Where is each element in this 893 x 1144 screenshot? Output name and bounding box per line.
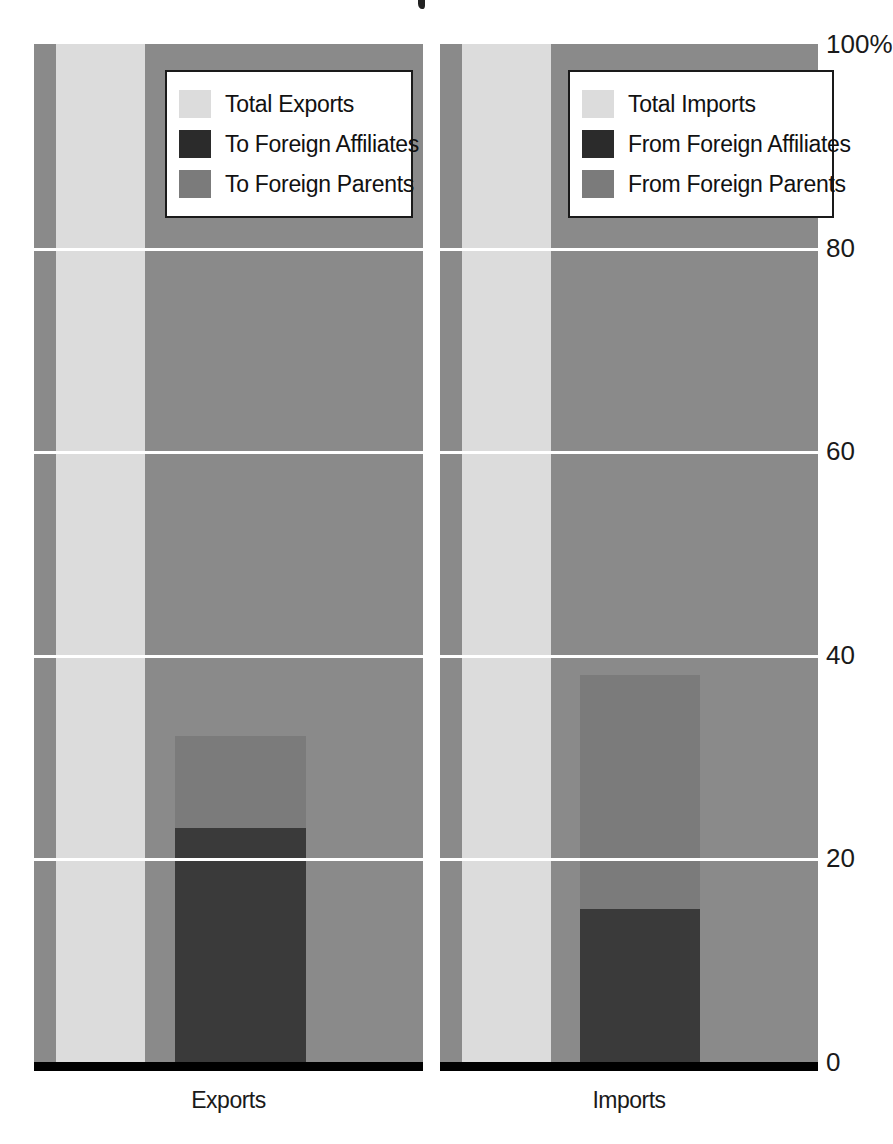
legend-swatch-affiliates-exports — [179, 130, 211, 158]
legend-label-affiliates-imports: From Foreign Affiliates — [628, 131, 851, 158]
legend-label-parents-exports: To Foreign Parents — [225, 171, 414, 198]
y-tick-label-60: 60 — [826, 438, 855, 464]
legend-label-total-imports: Total Imports — [628, 91, 756, 118]
y-tick-label-100: 100% — [826, 31, 893, 57]
legend-item-affiliates-exports: To Foreign Affiliates — [179, 124, 395, 164]
legend-swatch-total-imports — [582, 90, 614, 118]
cropped-title-artifact — [418, 0, 425, 9]
legend-item-total-exports: Total Exports — [179, 84, 395, 124]
legend-item-parents-exports: To Foreign Parents — [179, 164, 395, 204]
legend-imports: Total Imports From Foreign Affiliates Fr… — [568, 70, 834, 218]
bar-affiliates-imports — [580, 909, 700, 1062]
legend-item-total-imports: Total Imports — [582, 84, 816, 124]
x-axis-label-exports: Exports — [34, 1087, 423, 1114]
legend-swatch-affiliates-imports — [582, 130, 614, 158]
legend-exports: Total Exports To Foreign Affiliates To F… — [165, 70, 413, 218]
axis-line-imports — [440, 1062, 818, 1071]
legend-item-affiliates-imports: From Foreign Affiliates — [582, 124, 816, 164]
bar-total-imports — [462, 44, 551, 1062]
legend-swatch-parents-imports — [582, 170, 614, 198]
y-tick-label-20: 20 — [826, 845, 855, 871]
legend-label-affiliates-exports: To Foreign Affiliates — [225, 131, 419, 158]
bar-total-exports — [56, 44, 145, 1062]
legend-label-parents-imports: From Foreign Parents — [628, 171, 846, 198]
axis-line-exports — [34, 1062, 423, 1071]
legend-swatch-total-exports — [179, 90, 211, 118]
legend-swatch-parents-exports — [179, 170, 211, 198]
x-axis-label-imports: Imports — [440, 1087, 818, 1114]
legend-item-parents-imports: From Foreign Parents — [582, 164, 816, 204]
legend-label-total-exports: Total Exports — [225, 91, 354, 118]
bar-affiliates-exports — [175, 828, 306, 1062]
y-tick-label-40: 40 — [826, 642, 855, 668]
y-tick-label-0: 0 — [826, 1049, 840, 1075]
y-tick-label-80: 80 — [826, 235, 855, 261]
